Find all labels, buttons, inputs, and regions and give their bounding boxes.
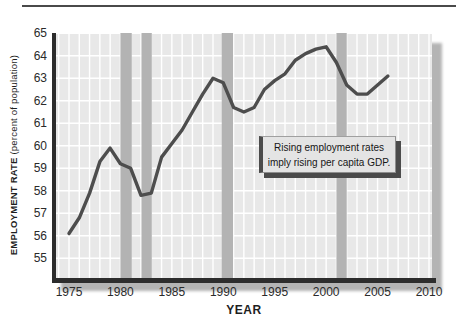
y-tick-label: 60 <box>34 139 48 153</box>
recession-band <box>142 33 152 278</box>
y-axis-title: EMPLOYMENT RATE (percent of population) <box>8 55 19 255</box>
y-tick-label: 57 <box>34 206 48 220</box>
y-axis-title-units: (percent of population) <box>8 55 19 155</box>
employment-rate-chart: 5556575859606162636465197519801985199019… <box>0 0 467 333</box>
annotation-callout-box: Rising employment rates imply rising per… <box>259 136 396 173</box>
x-tick-label: 1985 <box>159 285 186 299</box>
recession-band <box>222 33 233 278</box>
x-tick-label: 2000 <box>313 285 340 299</box>
y-axis-line <box>52 33 56 283</box>
y-tick-label: 65 <box>34 26 48 40</box>
y-tick-label: 58 <box>34 184 48 198</box>
y-tick-label: 62 <box>34 94 48 108</box>
y-tick-label: 63 <box>34 71 48 85</box>
y-axis-title-main: EMPLOYMENT RATE <box>8 157 19 255</box>
annotation-line-2: imply rising per capita GDP. <box>263 155 395 170</box>
annotation-line-1: Rising employment rates <box>263 140 395 155</box>
x-tick-label: 1975 <box>56 285 83 299</box>
y-tick-label: 55 <box>34 251 48 265</box>
figure-canvas: 5556575859606162636465197519801985199019… <box>0 0 467 333</box>
y-tick-label: 59 <box>34 161 48 175</box>
x-tick-label: 1995 <box>261 285 288 299</box>
x-tick-label: 2005 <box>364 285 391 299</box>
x-axis-title: YEAR <box>184 303 304 317</box>
x-tick-label: 2010 <box>416 285 443 299</box>
y-tick-label: 56 <box>34 229 48 243</box>
y-tick-label: 64 <box>34 49 48 63</box>
y-tick-label: 61 <box>34 116 48 130</box>
recession-band <box>120 33 131 278</box>
x-tick-label: 1990 <box>210 285 237 299</box>
x-axis-line <box>52 278 436 283</box>
x-tick-label: 1980 <box>107 285 134 299</box>
